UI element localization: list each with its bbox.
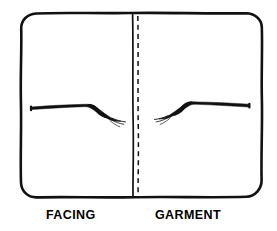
facing-label: FACING — [46, 209, 96, 222]
sewing-diagram-figure — [0, 0, 277, 231]
garment-label: GARMENT — [155, 209, 221, 222]
center-seam-solid-line — [133, 15, 134, 197]
